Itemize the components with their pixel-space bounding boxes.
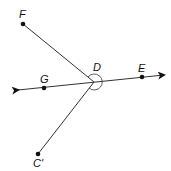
- label-f: F: [19, 8, 27, 20]
- point-e: [140, 75, 145, 80]
- point-c: [36, 152, 41, 157]
- ray-df: [23, 24, 94, 82]
- geometry-diagram: F D E G C': [0, 0, 171, 171]
- ray-dc: [38, 82, 94, 154]
- label-e: E: [138, 62, 146, 74]
- label-g: G: [40, 73, 49, 85]
- label-d: D: [93, 61, 101, 73]
- point-g: [42, 86, 47, 91]
- point-f: [21, 22, 26, 27]
- label-c: C': [33, 157, 44, 169]
